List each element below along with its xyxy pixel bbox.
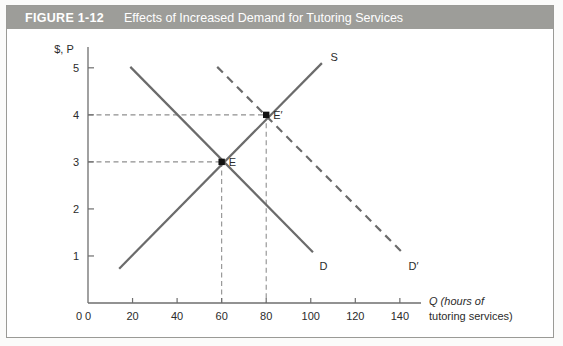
x-tick-label-120: 120 <box>346 310 364 322</box>
x-tick-label-0: 0 <box>85 310 91 322</box>
x-tick-label-100: 100 <box>302 310 320 322</box>
y-tick-label-1: 1 <box>73 250 79 262</box>
x-tick-label-60: 60 <box>216 310 228 322</box>
x-axis-title-line1: Q (hours of <box>429 295 485 307</box>
y-tick-label-2: 2 <box>73 203 79 215</box>
curve-supply <box>119 63 322 269</box>
equilibrium-point-E' <box>263 112 269 118</box>
figure-container: FIGURE 1-12 Effects of Increased Demand … <box>0 0 563 346</box>
y-tick-label-4: 4 <box>73 109 79 121</box>
curve-label-supply: S <box>331 51 338 63</box>
figure-number: FIGURE 1-12 <box>25 11 104 25</box>
equilibrium-point-E <box>218 159 224 165</box>
supply-demand-chart: 020406080100120140123450SDD′EE′$, PQ (ho… <box>7 29 553 337</box>
x-tick-label-20: 20 <box>126 310 138 322</box>
origin-label: 0 <box>76 310 82 322</box>
x-tick-label-140: 140 <box>391 310 409 322</box>
x-tick-label-80: 80 <box>260 310 272 322</box>
y-axis-title: $, P <box>54 43 74 55</box>
figure-title: Effects of Increased Demand for Tutoring… <box>124 11 403 25</box>
x-axis-title-line2: tutoring services) <box>429 310 513 322</box>
equilibrium-label-E': E′ <box>273 109 282 121</box>
x-tick-label-40: 40 <box>171 310 183 322</box>
curve-demand-increased <box>217 67 402 252</box>
figure-header-band: FIGURE 1-12 Effects of Increased Demand … <box>7 6 553 29</box>
y-tick-label-3: 3 <box>73 156 79 168</box>
curve-label-demand-increased: D′ <box>409 260 419 272</box>
plot-area: 020406080100120140123450SDD′EE′$, PQ (ho… <box>7 29 553 337</box>
curve-label-demand-original: D <box>319 260 327 272</box>
equilibrium-label-E: E <box>229 156 236 168</box>
y-tick-label-5: 5 <box>73 62 79 74</box>
